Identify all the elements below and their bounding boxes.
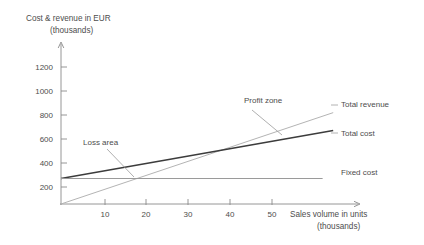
y-tick-label-1200: 1200 bbox=[35, 63, 53, 72]
x-axis-title: Sales volume in units bbox=[290, 210, 367, 219]
chart-canvas: Cost & revenue in EUR (thousands) Sales … bbox=[0, 0, 424, 245]
y-axis-title-sub: (thousands) bbox=[50, 26, 94, 35]
x-axis-ticks: 10 20 30 40 50 bbox=[101, 199, 277, 219]
x-axis-title-sub: (thousands) bbox=[317, 222, 361, 231]
x-tick-label-30: 30 bbox=[184, 210, 193, 219]
y-axis-ticks: 1200 1000 800 600 400 200 bbox=[35, 63, 67, 192]
profit-zone-label: Profit zone bbox=[244, 96, 283, 105]
y-axis bbox=[58, 42, 64, 205]
x-tick-label-40: 40 bbox=[226, 210, 235, 219]
y-tick-label-400: 400 bbox=[40, 159, 54, 168]
series-line-total-revenue bbox=[61, 113, 333, 204]
y-tick-label-800: 800 bbox=[40, 111, 54, 120]
series-legend: Total revenue Total cost Fixed cost bbox=[331, 100, 390, 177]
break-even-chart: Cost & revenue in EUR (thousands) Sales … bbox=[0, 0, 424, 245]
series-label-total-revenue: Total revenue bbox=[341, 100, 390, 109]
y-tick-label-200: 200 bbox=[40, 183, 54, 192]
y-tick-label-1000: 1000 bbox=[35, 87, 53, 96]
annotation-profit-zone: Profit zone bbox=[244, 96, 283, 135]
x-tick-label-10: 10 bbox=[101, 210, 110, 219]
series-lines bbox=[61, 113, 333, 204]
annotation-loss-area: Loss area bbox=[83, 138, 134, 177]
y-tick-label-600: 600 bbox=[40, 135, 54, 144]
x-tick-label-50: 50 bbox=[268, 210, 277, 219]
x-tick-label-20: 20 bbox=[142, 210, 151, 219]
y-axis-title: Cost & revenue in EUR bbox=[26, 14, 111, 23]
loss-area-label: Loss area bbox=[83, 138, 119, 147]
series-label-total-cost: Total cost bbox=[341, 129, 376, 138]
series-label-fixed-cost: Fixed cost bbox=[341, 168, 378, 177]
